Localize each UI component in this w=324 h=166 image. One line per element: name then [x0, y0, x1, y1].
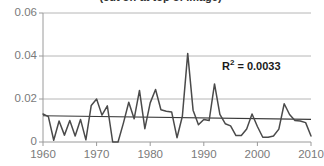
r-squared-annotation: R2 = 0.0033 — [222, 58, 281, 72]
y-tick-label: 0.02 — [3, 93, 37, 104]
x-tick-label: 1960 — [30, 148, 56, 161]
gridlines — [43, 13, 311, 142]
y-axis: 00.020.040.06 — [0, 0, 37, 166]
x-axis: 196019701980199020002010 — [0, 146, 321, 166]
x-tick-label: 1970 — [84, 148, 110, 161]
x-tick-label: 2010 — [298, 148, 324, 161]
x-tick-label: 2000 — [245, 148, 271, 161]
trendline — [43, 116, 311, 120]
r2-suffix: = 0.0033 — [234, 60, 280, 72]
r2-prefix: R — [222, 60, 230, 72]
y-tick-label: 0.06 — [3, 7, 37, 18]
x-tick-label: 1990 — [191, 148, 217, 161]
y-tick-label: 0.04 — [3, 50, 37, 61]
x-tick-label: 1980 — [137, 148, 163, 161]
